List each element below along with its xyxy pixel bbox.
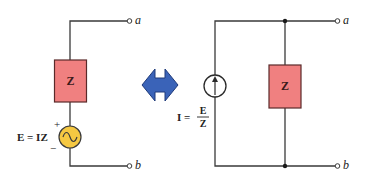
minus-sign: − <box>50 142 56 154</box>
double-headed-arrow-icon <box>142 69 178 101</box>
impedance-label-left: Z <box>66 74 74 88</box>
left-circuit: a b Z + − E = IZ <box>17 13 141 172</box>
terminal-a-label-right: a <box>343 13 349 27</box>
terminal-b-left <box>127 164 132 169</box>
right-circuit: a b I = E Z Z <box>177 13 349 172</box>
current-label-lhs: I = <box>177 111 190 123</box>
wire-top-left <box>70 21 127 60</box>
terminal-a-right <box>335 19 340 24</box>
terminal-a-left <box>127 19 132 24</box>
terminal-a-label-left: a <box>135 13 141 27</box>
source-label-left: E = IZ <box>17 131 48 143</box>
terminal-b-label-right: b <box>343 158 349 172</box>
junction-dot-top <box>283 19 287 23</box>
terminal-b-right <box>335 164 340 169</box>
fraction-numerator: E <box>200 105 207 116</box>
junction-dot-bottom <box>283 164 287 168</box>
terminal-b-label-left: b <box>135 158 141 172</box>
fraction-denominator: Z <box>200 118 207 129</box>
impedance-label-right: Z <box>281 79 289 93</box>
plus-sign: + <box>54 118 60 130</box>
circuit-diagram: a b Z + − E = IZ a b I = E <box>0 0 365 178</box>
wire-bottom-left <box>70 148 127 166</box>
